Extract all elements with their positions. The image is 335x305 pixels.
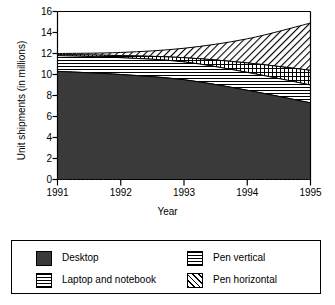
y-axis-title: Unit shipments (in millions) bbox=[16, 11, 27, 191]
x-tick-label: 1994 bbox=[227, 188, 267, 198]
legend-label-desktop: Desktop bbox=[62, 253, 99, 263]
legend-swatch-laptop-and-notebook bbox=[36, 273, 52, 288]
y-tick-label: 4 bbox=[22, 133, 52, 143]
y-tick-label: 10 bbox=[22, 70, 52, 80]
legend-swatch-pen-vertical bbox=[187, 251, 203, 266]
legend-label-laptop-and-notebook: Laptop and notebook bbox=[62, 275, 156, 285]
legend-item-laptop-and-notebook: Laptop and notebook bbox=[36, 272, 156, 288]
y-tick-label: 6 bbox=[22, 112, 52, 122]
legend-item-desktop: Desktop bbox=[36, 250, 99, 266]
y-tick-label: 8 bbox=[22, 91, 52, 101]
y-tick-label: 12 bbox=[22, 49, 52, 59]
x-tick-label: 1993 bbox=[164, 188, 204, 198]
chart-page: 0246810121416 19911992199319941995 Unit … bbox=[0, 0, 335, 305]
y-tick-label: 16 bbox=[22, 7, 52, 17]
x-axis-ticks bbox=[58, 180, 311, 186]
legend-label-pen-vertical: Pen vertical bbox=[213, 253, 265, 263]
y-tick-label: 2 bbox=[22, 154, 52, 164]
x-tick-label: 1995 bbox=[291, 188, 331, 198]
legend-label-pen-horizontal: Pen horizontal bbox=[213, 275, 277, 285]
legend-swatch-pen-horizontal bbox=[187, 273, 203, 288]
x-axis-title: Year bbox=[0, 206, 335, 217]
x-axis-tick-labels: 19911992199319941995 bbox=[0, 188, 335, 202]
y-tick-label: 0 bbox=[22, 175, 52, 185]
y-axis-ticks bbox=[53, 12, 58, 180]
legend-item-pen-vertical: Pen vertical bbox=[187, 250, 265, 266]
legend-swatch-desktop bbox=[36, 251, 52, 266]
x-tick-label: 1991 bbox=[38, 188, 78, 198]
chart-legend: Desktop Laptop and notebook Pen vertical… bbox=[11, 240, 321, 294]
x-tick-label: 1992 bbox=[101, 188, 141, 198]
legend-item-pen-horizontal: Pen horizontal bbox=[187, 272, 277, 288]
stacked-area-chart: 0246810121416 19911992199319941995 Unit … bbox=[0, 0, 335, 232]
y-tick-label: 14 bbox=[22, 28, 52, 38]
